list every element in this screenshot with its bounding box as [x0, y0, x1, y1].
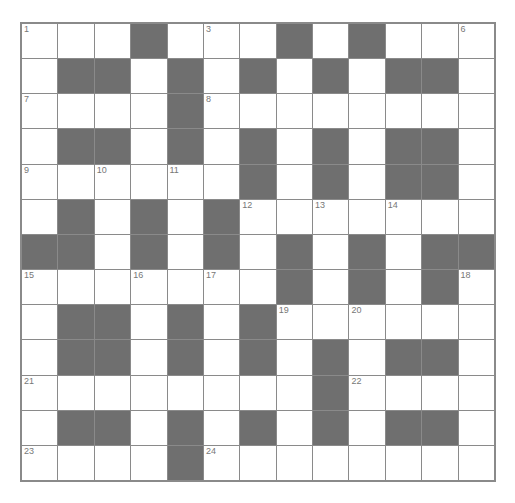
answer-cell[interactable]: 17: [204, 270, 239, 304]
answer-cell[interactable]: [277, 200, 312, 234]
answer-cell[interactable]: [58, 376, 93, 410]
answer-cell[interactable]: [240, 446, 275, 480]
answer-cell[interactable]: [277, 165, 312, 199]
answer-cell[interactable]: [204, 59, 239, 93]
answer-cell[interactable]: [131, 411, 166, 445]
answer-cell[interactable]: [131, 446, 166, 480]
answer-cell[interactable]: [240, 94, 275, 128]
answer-cell[interactable]: [349, 340, 384, 374]
answer-cell[interactable]: [386, 94, 421, 128]
answer-cell[interactable]: 10: [95, 165, 130, 199]
answer-cell[interactable]: [95, 94, 130, 128]
answer-cell[interactable]: [131, 340, 166, 374]
answer-cell[interactable]: [277, 411, 312, 445]
answer-cell[interactable]: [277, 340, 312, 374]
answer-cell[interactable]: [168, 270, 203, 304]
answer-cell[interactable]: [459, 411, 494, 445]
answer-cell[interactable]: [459, 305, 494, 339]
answer-cell[interactable]: [58, 24, 93, 58]
answer-cell[interactable]: [349, 200, 384, 234]
answer-cell[interactable]: [168, 235, 203, 269]
answer-cell[interactable]: [58, 446, 93, 480]
answer-cell[interactable]: [422, 24, 457, 58]
answer-cell[interactable]: [349, 165, 384, 199]
answer-cell[interactable]: 12: [240, 200, 275, 234]
answer-cell[interactable]: [204, 165, 239, 199]
answer-cell[interactable]: 3: [204, 24, 239, 58]
answer-cell[interactable]: [131, 305, 166, 339]
answer-cell[interactable]: [313, 24, 348, 58]
answer-cell[interactable]: [131, 59, 166, 93]
answer-cell[interactable]: [131, 376, 166, 410]
answer-cell[interactable]: [277, 446, 312, 480]
answer-cell[interactable]: [459, 94, 494, 128]
answer-cell[interactable]: [459, 129, 494, 163]
answer-cell[interactable]: [459, 446, 494, 480]
answer-cell[interactable]: [22, 305, 57, 339]
answer-cell[interactable]: [95, 235, 130, 269]
answer-cell[interactable]: [204, 411, 239, 445]
answer-cell[interactable]: [58, 94, 93, 128]
answer-cell[interactable]: [459, 165, 494, 199]
answer-cell[interactable]: [131, 129, 166, 163]
answer-cell[interactable]: [386, 270, 421, 304]
answer-cell[interactable]: 6: [459, 24, 494, 58]
answer-cell[interactable]: [386, 376, 421, 410]
answer-cell[interactable]: [313, 446, 348, 480]
answer-cell[interactable]: [131, 94, 166, 128]
answer-cell[interactable]: [204, 376, 239, 410]
answer-cell[interactable]: [22, 59, 57, 93]
answer-cell[interactable]: [459, 340, 494, 374]
answer-cell[interactable]: [422, 376, 457, 410]
answer-cell[interactable]: [277, 376, 312, 410]
answer-cell[interactable]: [422, 305, 457, 339]
answer-cell[interactable]: [58, 165, 93, 199]
answer-cell[interactable]: [22, 411, 57, 445]
answer-cell[interactable]: 16: [131, 270, 166, 304]
answer-cell[interactable]: [168, 376, 203, 410]
answer-cell[interactable]: 13: [313, 200, 348, 234]
answer-cell[interactable]: [386, 446, 421, 480]
answer-cell[interactable]: [386, 235, 421, 269]
answer-cell[interactable]: [204, 305, 239, 339]
answer-cell[interactable]: [204, 129, 239, 163]
answer-cell[interactable]: [22, 129, 57, 163]
answer-cell[interactable]: [168, 200, 203, 234]
answer-cell[interactable]: [240, 270, 275, 304]
answer-cell[interactable]: [204, 340, 239, 374]
answer-cell[interactable]: [313, 235, 348, 269]
answer-cell[interactable]: [95, 446, 130, 480]
answer-cell[interactable]: 14: [386, 200, 421, 234]
answer-cell[interactable]: [459, 59, 494, 93]
answer-cell[interactable]: [349, 129, 384, 163]
answer-cell[interactable]: [95, 376, 130, 410]
answer-cell[interactable]: [422, 94, 457, 128]
answer-cell[interactable]: [386, 24, 421, 58]
answer-cell[interactable]: [95, 200, 130, 234]
answer-cell[interactable]: [240, 24, 275, 58]
answer-cell[interactable]: [386, 305, 421, 339]
answer-cell[interactable]: [349, 94, 384, 128]
answer-cell[interactable]: 11: [168, 165, 203, 199]
answer-cell[interactable]: [240, 376, 275, 410]
answer-cell[interactable]: 21: [22, 376, 57, 410]
answer-cell[interactable]: [131, 165, 166, 199]
answer-cell[interactable]: [95, 270, 130, 304]
answer-cell[interactable]: 15: [22, 270, 57, 304]
answer-cell[interactable]: [313, 305, 348, 339]
answer-cell[interactable]: [277, 59, 312, 93]
answer-cell[interactable]: [277, 129, 312, 163]
answer-cell[interactable]: 9: [22, 165, 57, 199]
answer-cell[interactable]: 1: [22, 24, 57, 58]
answer-cell[interactable]: 8: [204, 94, 239, 128]
answer-cell[interactable]: [459, 200, 494, 234]
answer-cell[interactable]: [422, 200, 457, 234]
answer-cell[interactable]: [349, 446, 384, 480]
answer-cell[interactable]: 19: [277, 305, 312, 339]
answer-cell[interactable]: 7: [22, 94, 57, 128]
answer-cell[interactable]: [459, 376, 494, 410]
answer-cell[interactable]: 22: [349, 376, 384, 410]
answer-cell[interactable]: [58, 270, 93, 304]
answer-cell[interactable]: 23: [22, 446, 57, 480]
answer-cell[interactable]: [277, 94, 312, 128]
